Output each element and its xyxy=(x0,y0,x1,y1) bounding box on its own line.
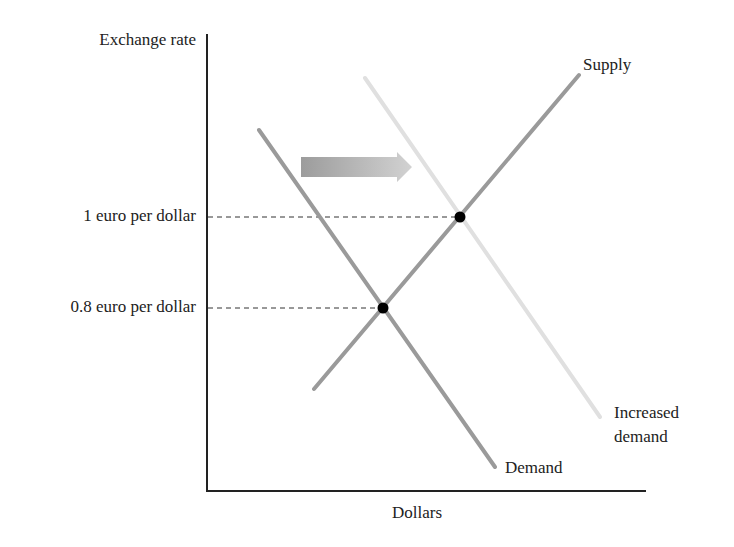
y-axis-label: Exchange rate xyxy=(99,30,196,50)
tick-label-0.8-euro: 0.8 euro per dollar xyxy=(70,297,196,317)
demand-label: Demand xyxy=(505,458,563,478)
exchange-rate-diagram xyxy=(0,0,734,547)
increased-demand-label-line1: Increased xyxy=(614,403,679,423)
increased-demand-label-line2: demand xyxy=(614,427,668,447)
demand-curve xyxy=(259,130,495,467)
tick-label-1-euro: 1 euro per dollar xyxy=(83,206,196,226)
supply-label: Supply xyxy=(583,55,631,75)
equilibrium-point-low xyxy=(378,303,389,314)
x-axis-label: Dollars xyxy=(392,503,442,523)
equilibrium-point-high xyxy=(455,212,466,223)
supply-curve xyxy=(314,75,579,389)
shift-arrow-icon xyxy=(301,152,412,182)
increased-demand-curve xyxy=(365,78,600,417)
